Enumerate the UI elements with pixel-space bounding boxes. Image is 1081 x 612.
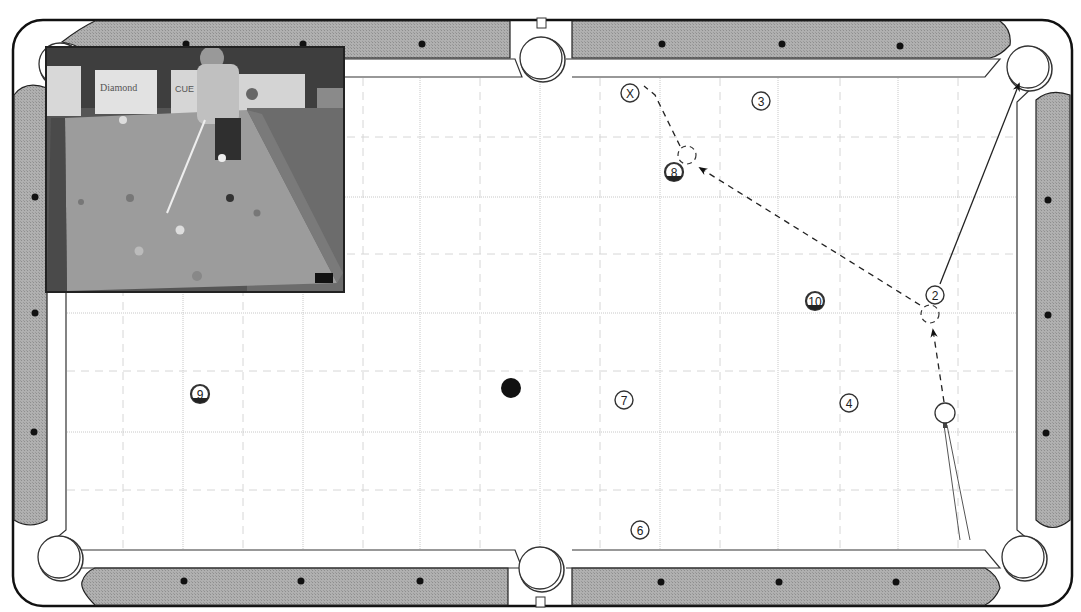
ball-number: 3: [758, 95, 765, 109]
black-ball: [501, 378, 521, 398]
ball-number: 2: [932, 289, 939, 303]
diamond-marker: [32, 310, 39, 317]
ball-x: X: [621, 84, 639, 102]
ball-number: 7: [621, 394, 628, 408]
pocket-bottom-right: [1002, 536, 1047, 581]
ball-number: 10: [808, 295, 822, 309]
ball-8: 8: [665, 163, 683, 181]
ball-10: 10: [806, 292, 824, 310]
diamond-marker: [298, 578, 305, 585]
ball-number: 9: [197, 388, 204, 402]
ball-2: 2: [926, 286, 944, 304]
pocket-top-middle: [520, 37, 565, 82]
inset-photo: Diamond CUE: [45, 46, 345, 293]
photo-scene: Diamond CUE: [47, 48, 343, 291]
diamond-marker: [1043, 430, 1050, 437]
diamond-marker: [1045, 312, 1052, 319]
diamond-marker: [419, 41, 426, 48]
svg-text:CUE: CUE: [175, 84, 194, 94]
diamond-marker: [776, 579, 783, 586]
pocket-bottom-left: [38, 536, 83, 581]
pool-table-diagram: X381029746 Diamond CUE: [0, 0, 1081, 612]
diamond-marker: [893, 579, 900, 586]
ball-number: 4: [846, 397, 853, 411]
diamond-marker: [1045, 197, 1052, 204]
diamond-marker: [658, 579, 665, 586]
pocket-bottom-middle: [519, 547, 564, 592]
cue-tip: [943, 423, 947, 428]
diamond-marker: [31, 429, 38, 436]
diamond-marker: [897, 43, 904, 50]
svg-text:Diamond: Diamond: [100, 82, 137, 93]
pocket-top-right: [1007, 46, 1052, 91]
diamond-marker: [417, 578, 424, 585]
ball-4: 4: [840, 394, 858, 412]
diamond-marker: [32, 194, 39, 201]
ball-9: 9: [191, 385, 209, 403]
cue-ball: [935, 403, 955, 423]
ball-7: 7: [615, 391, 633, 409]
ball-6: 6: [631, 521, 649, 539]
ball-number: X: [626, 87, 634, 101]
diamond-marker: [659, 41, 666, 48]
diamond-marker: [779, 41, 786, 48]
ball-3: 3: [752, 92, 770, 110]
diamond-marker: [181, 578, 188, 585]
ball-number: 8: [671, 166, 678, 180]
ball-number: 6: [637, 524, 644, 538]
pocket-tab-bottom: [536, 597, 545, 607]
pocket-tab-top: [537, 18, 546, 28]
